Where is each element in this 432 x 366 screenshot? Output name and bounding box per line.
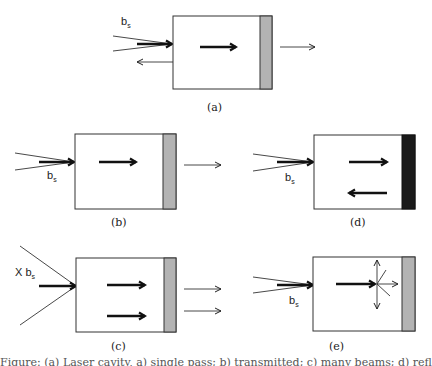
gray-mirror (164, 258, 176, 332)
source-label: bs (47, 169, 57, 183)
panel-a: bs (a) (113, 15, 315, 114)
caption-d: (d) (350, 216, 366, 229)
source-ray-upper (15, 153, 74, 162)
cavity-box (173, 16, 272, 89)
gray-mirror (163, 134, 176, 209)
source-ray-lower (20, 286, 76, 325)
source-label: bs (289, 294, 299, 308)
panel-e: bs (e) (253, 257, 415, 353)
figure-caption: Figure: (a) Laser cavity, a) single pass… (0, 356, 432, 366)
cavity-box (75, 134, 176, 209)
source-ray-lower (253, 162, 313, 171)
panel-c: X bs (c) (15, 246, 221, 353)
cavity-box (313, 257, 415, 331)
caption-b: (b) (111, 216, 127, 229)
gray-mirror (402, 257, 415, 331)
gray-mirror (260, 16, 272, 89)
panel-b: bs (b) (15, 134, 221, 229)
source-label: bs (121, 15, 131, 29)
cavity-box (76, 258, 176, 332)
source-label: X bs (15, 266, 36, 280)
caption-a: (a) (207, 101, 222, 114)
caption-c: (c) (111, 340, 126, 353)
panel-d: bs (d) (253, 135, 415, 229)
diagram-canvas: bs (a) bs (b) bs (d) (0, 0, 432, 366)
caption-e: (e) (329, 340, 344, 353)
black-mirror (402, 135, 415, 209)
cavity-box (314, 135, 415, 209)
source-label: bs (285, 171, 295, 185)
